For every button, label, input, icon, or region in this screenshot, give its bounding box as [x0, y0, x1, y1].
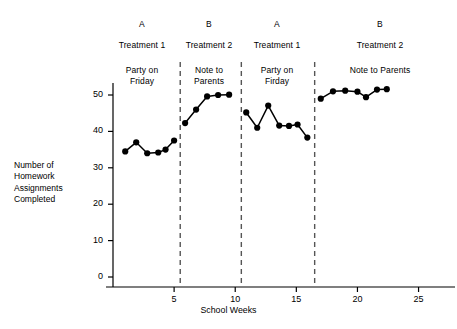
y-tick-label-40: 40 [79, 125, 103, 135]
data-point [215, 92, 221, 98]
plot-area [0, 0, 457, 329]
y-tick-label-10: 10 [79, 235, 103, 245]
data-point [133, 139, 139, 145]
data-point [243, 109, 249, 115]
data-series [122, 86, 390, 156]
data-point [330, 88, 336, 94]
data-point [171, 137, 177, 143]
y-tick-label-50: 50 [79, 89, 103, 99]
x-tick-label-5: 5 [162, 294, 186, 304]
x-tick-label-25: 25 [407, 294, 431, 304]
data-point [226, 92, 232, 98]
chart-figure: A Treatment 1 Party on Friday B Treatmen… [0, 0, 457, 329]
y-tick-label-0: 0 [79, 271, 103, 281]
data-point [276, 122, 282, 128]
phase-divider-lines [180, 62, 314, 287]
data-point [294, 121, 300, 127]
axes [106, 83, 455, 292]
data-point [144, 150, 150, 156]
data-point [354, 89, 360, 95]
x-tick-label-15: 15 [284, 294, 308, 304]
data-point [374, 86, 380, 92]
data-point [304, 134, 310, 140]
data-point [265, 102, 271, 108]
y-tick-label-20: 20 [79, 198, 103, 208]
data-point [182, 120, 188, 126]
data-point [318, 96, 324, 102]
data-point [342, 88, 348, 94]
data-point [122, 148, 128, 154]
x-tick-label-10: 10 [223, 294, 247, 304]
data-point [363, 94, 369, 100]
data-point [254, 125, 260, 131]
x-tick-label-20: 20 [345, 294, 369, 304]
data-point [384, 86, 390, 92]
y-tick-label-30: 30 [79, 162, 103, 172]
data-point [162, 147, 168, 153]
data-point [155, 149, 161, 155]
data-point [286, 123, 292, 129]
data-point [204, 93, 210, 99]
data-point [193, 106, 199, 112]
